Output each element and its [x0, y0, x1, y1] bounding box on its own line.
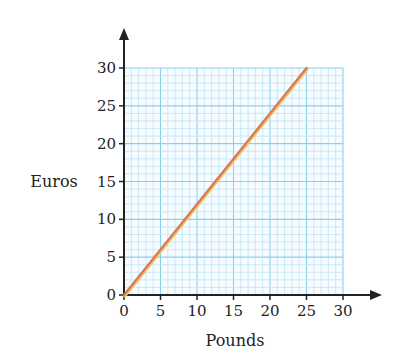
x-tick-label: 0 — [119, 302, 129, 320]
y-tick-label: 20 — [97, 135, 116, 153]
y-tick-label: 10 — [97, 210, 116, 228]
y-tick-label: 5 — [106, 248, 116, 266]
x-tick-label: 15 — [224, 302, 243, 320]
y-tick-label: 30 — [97, 59, 116, 77]
x-tick-label: 5 — [156, 302, 166, 320]
y-tick-label: 25 — [97, 97, 116, 115]
x-axis-arrow-icon — [370, 290, 382, 300]
x-tick-label: 20 — [260, 302, 279, 320]
y-axis-title: Euros — [30, 172, 77, 191]
y-tick-label: 0 — [106, 286, 116, 304]
x-tick-label: 10 — [187, 302, 206, 320]
y-axis-arrow-icon — [119, 28, 129, 40]
x-tick-label: 25 — [297, 302, 316, 320]
conversion-chart: 051015202530051015202530 Pounds Euros — [0, 0, 393, 360]
x-axis-title: Pounds — [206, 331, 265, 350]
y-tick-label: 15 — [97, 173, 116, 191]
x-tick-label: 30 — [333, 302, 352, 320]
grid — [124, 68, 343, 295]
